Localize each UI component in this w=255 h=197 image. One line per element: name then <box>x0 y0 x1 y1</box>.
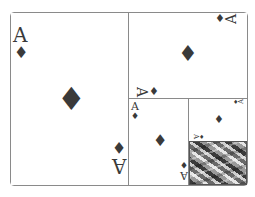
playing-card-small[interactable]: ♦ A ♦ A ♦ <box>189 99 247 141</box>
playing-card-medium[interactable]: A ♦ ♦ ♦ A <box>129 99 188 185</box>
diamond-icon-center: ♦ <box>214 114 224 125</box>
diamond-icon-center: ♦ <box>153 133 167 149</box>
diamond-icon: ♦ <box>199 134 204 140</box>
card-rank-bottom: A <box>192 134 199 139</box>
diamond-icon: ♦ <box>149 86 159 97</box>
diamond-icon: ♦ <box>131 112 139 121</box>
playing-card-large[interactable]: A ♦ ♦ ♦ A <box>11 13 128 185</box>
card-back[interactable] <box>189 141 247 185</box>
card-rank-top: A <box>224 14 238 24</box>
playing-card-landscape[interactable]: ♦ A ♦ A ♦ <box>129 13 247 98</box>
card-rank-top: A <box>238 99 245 104</box>
card-rank-bottom: A <box>135 87 149 97</box>
card-rank-top: A <box>13 25 27 45</box>
card-rank-bottom: A <box>180 170 188 181</box>
diamond-icon: ♦ <box>14 45 28 61</box>
diamond-icon: ♦ <box>112 139 126 155</box>
diamond-icon-center: ♦ <box>178 43 198 65</box>
card-rank-bottom: A <box>112 156 126 176</box>
diamond-icon: ♦ <box>180 160 188 169</box>
diamond-icon-center: ♦ <box>57 83 86 115</box>
